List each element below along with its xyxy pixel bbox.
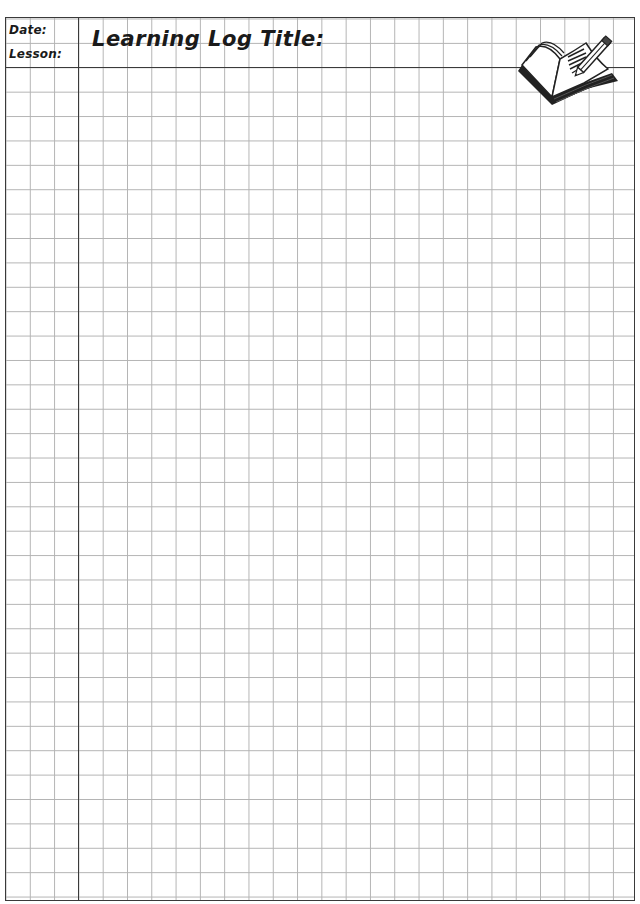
left-margin-divider bbox=[78, 18, 79, 900]
open-book-with-pencil-icon bbox=[512, 25, 624, 113]
learning-log-title: Learning Log Title: bbox=[92, 27, 325, 51]
date-label: Date: bbox=[9, 23, 47, 37]
lesson-label: Lesson: bbox=[9, 47, 62, 61]
graph-paper-sheet: Date: Lesson: Learning Log Title: bbox=[5, 17, 635, 901]
